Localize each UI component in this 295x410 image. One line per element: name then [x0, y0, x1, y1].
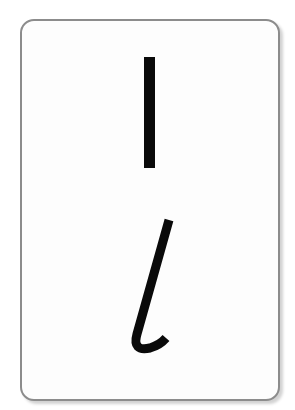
- uppercase-i-glyph: [144, 57, 155, 168]
- lowercase-l-glyph: [136, 220, 169, 349]
- letter-glyphs: [0, 0, 295, 410]
